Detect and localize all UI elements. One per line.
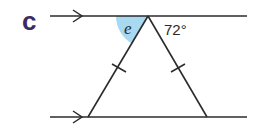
parallel-lines-triangle-diagram: e 72° [0,0,254,134]
angle-e-label: e [124,19,132,38]
angle-e-shade [116,16,148,44]
angle-72-label: 72° [164,21,187,38]
equal-tick-mark [171,64,185,72]
triangle-left-side [88,16,148,117]
